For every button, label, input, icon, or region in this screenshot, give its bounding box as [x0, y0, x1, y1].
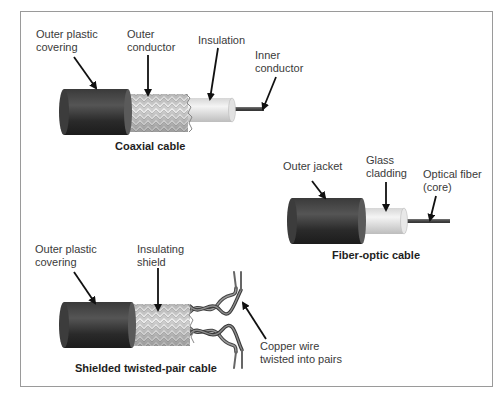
caption-coaxial: Coaxial cable	[115, 140, 185, 152]
outer-plastic-covering	[64, 302, 132, 348]
label-fiber-optical-core: Optical fiber (core)	[423, 168, 482, 194]
arrow-stp-copper-wire	[243, 303, 266, 339]
coaxial-cable	[59, 89, 264, 135]
caption-fiber-optic: Fiber-optic cable	[332, 249, 420, 261]
label-stp-outer-plastic: Outer plastic covering	[35, 243, 97, 269]
arrow-coax-insulation	[210, 48, 218, 99]
label-stp-insulating-shield: Insulating shield	[137, 243, 184, 269]
fiber-optic-cable	[287, 198, 450, 244]
arrow-fiber-optical-core	[430, 196, 436, 220]
insulation-cylinder	[188, 98, 232, 122]
label-coax-insulation: Insulation	[198, 34, 245, 47]
caption-stp: Shielded twisted-pair cable	[75, 362, 217, 374]
arrow-fiber-outer-jacket	[312, 181, 325, 198]
arrow-coax-inner-conductor	[263, 77, 276, 109]
inner-conductor-wire	[234, 107, 264, 111]
label-stp-copper-wire: Copper wire twisted into pairs	[260, 340, 342, 366]
cable-illustrations	[0, 0, 504, 398]
label-fiber-outer-jacket: Outer jacket	[283, 160, 342, 173]
twisted-pairs	[190, 272, 242, 368]
outer-jacket-cylinder	[292, 198, 362, 244]
arrow-coax-outer-plastic	[74, 57, 96, 88]
label-fiber-glass-cladding: Glass cladding	[366, 154, 407, 180]
arrow-stp-outer-plastic	[74, 272, 95, 303]
label-coax-inner-conductor: Inner conductor	[255, 49, 303, 75]
stp-cable	[59, 272, 242, 368]
outer-plastic-jacket	[64, 89, 128, 135]
optical-fiber-core	[404, 219, 450, 223]
glass-cladding-cylinder	[362, 208, 404, 234]
label-coax-outer-conductor: Outer conductor	[127, 28, 175, 54]
label-coax-outer-plastic: Outer plastic covering	[36, 28, 98, 54]
